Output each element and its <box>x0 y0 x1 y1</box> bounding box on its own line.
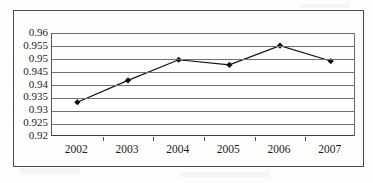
gridline <box>52 85 354 86</box>
y-tick-label: 0.935 <box>23 91 48 102</box>
series-line <box>77 46 330 103</box>
y-tick-label: 0.95 <box>29 53 48 64</box>
gridline <box>52 98 354 99</box>
data-point-marker <box>226 62 232 68</box>
gridline <box>52 111 354 112</box>
gridline <box>52 46 354 47</box>
scan-speckle <box>300 4 350 8</box>
scan-speckle <box>180 172 270 177</box>
y-tick-label: 0.92 <box>29 130 48 141</box>
y-tick-label: 0.925 <box>23 117 48 128</box>
y-tick-label: 0.93 <box>29 104 48 115</box>
x-tick-label: 2002 <box>51 141 102 161</box>
x-tick-label: 2006 <box>254 141 305 161</box>
x-tick-label: 2003 <box>102 141 153 161</box>
x-axis-labels: 200220032004200520062007 <box>51 141 355 161</box>
gridline <box>52 124 354 125</box>
x-tick-label: 2007 <box>304 141 355 161</box>
data-point-marker <box>74 99 80 105</box>
y-tick-label: 0.94 <box>29 79 48 90</box>
gridline <box>52 59 354 60</box>
y-tick-label: 0.955 <box>23 40 48 51</box>
gridline <box>52 72 354 73</box>
y-tick-label: 0.96 <box>29 27 48 38</box>
chart-screenshot: 0.960.9550.950.9450.940.9350.930.9250.92… <box>0 0 373 183</box>
x-tick-label: 2004 <box>152 141 203 161</box>
y-axis-labels: 0.960.9550.950.9450.940.9350.930.9250.92 <box>0 0 48 183</box>
data-point-marker <box>125 77 131 83</box>
plot-area <box>51 33 355 136</box>
x-tick-label: 2005 <box>203 141 254 161</box>
y-tick-label: 0.945 <box>23 66 48 77</box>
